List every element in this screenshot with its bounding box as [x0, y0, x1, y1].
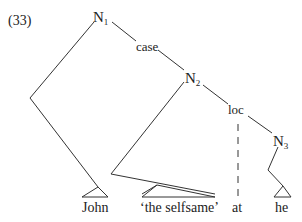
node-n2: N2 — [185, 71, 200, 88]
edge-n1-case — [112, 22, 136, 41]
node-n1-subscript: 1 — [104, 17, 109, 27]
node-n3-label: N — [273, 133, 284, 149]
triangle-john — [82, 187, 108, 197]
edge-n2-loc — [203, 85, 228, 104]
tree-edges — [0, 0, 302, 222]
node-n2-label: N — [185, 70, 196, 86]
node-n3: N3 — [273, 134, 288, 151]
edge-n2-selfsame — [111, 82, 215, 194]
leaf-he: he — [275, 201, 288, 215]
edge-label-loc: loc — [228, 103, 244, 116]
triangle-he — [274, 186, 291, 197]
edge-n1-john — [30, 22, 98, 187]
edge-n3-he — [268, 147, 283, 186]
leaf-the-selfsame: ‘the selfsame’ — [140, 201, 219, 215]
leaf-john: John — [82, 201, 108, 215]
node-n2-subscript: 2 — [196, 78, 201, 88]
edge-loc-n3 — [248, 116, 272, 133]
node-n1-label: N — [93, 9, 104, 25]
edge-case-n2 — [158, 50, 184, 70]
edge-label-case: case — [136, 40, 158, 53]
node-n3-subscript: 3 — [284, 141, 289, 151]
leaf-at: at — [232, 201, 242, 215]
node-n1: N1 — [93, 10, 108, 27]
example-number: (33) — [8, 14, 31, 28]
tree-diagram: (33) N1 case N2 loc N3 John ‘the selfsam… — [0, 0, 302, 222]
